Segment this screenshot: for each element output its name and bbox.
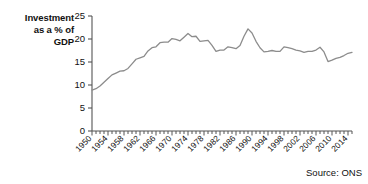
x-tick-label: 1998 [265, 133, 285, 153]
x-tick-label: 1994 [249, 133, 269, 153]
x-tick-label: 1982 [201, 133, 221, 153]
x-tick-label: 1986 [217, 133, 237, 153]
line-chart-canvas: 0510152025 19501954195819621966197019741… [0, 0, 368, 184]
x-tick-label: 1970 [153, 133, 173, 153]
x-tick-label: 1962 [121, 133, 141, 153]
x-axis-ticks [92, 131, 352, 136]
chart-figure: Investmentas a % ofGDP 0510152025 195019… [0, 0, 368, 184]
x-tick-label: 2014 [329, 133, 349, 153]
x-tick-label: 1966 [137, 133, 157, 153]
x-tick-label: 1954 [89, 133, 109, 153]
x-tick-label: 1950 [73, 133, 93, 153]
x-tick-label: 1974 [169, 133, 189, 153]
x-tick-label: 1990 [233, 133, 253, 153]
y-tick-label: 20 [74, 33, 85, 44]
y-tick-label: 15 [74, 56, 85, 67]
y-tick-label: 10 [74, 79, 85, 90]
y-axis-ticks: 0510152025 [74, 10, 92, 136]
x-tick-label: 2002 [281, 133, 301, 153]
x-tick-label: 1978 [185, 133, 205, 153]
x-tick-label: 2010 [313, 133, 333, 153]
data-series-line [92, 29, 352, 90]
y-tick-label: 25 [74, 10, 85, 21]
x-tick-label: 2006 [297, 133, 317, 153]
x-tick-label: 1958 [105, 133, 125, 153]
x-axis-tick-labels: 1950195419581962196619701974197819821986… [73, 133, 349, 153]
source-note: Source: ONS [306, 167, 362, 178]
y-tick-label: 5 [80, 102, 85, 113]
